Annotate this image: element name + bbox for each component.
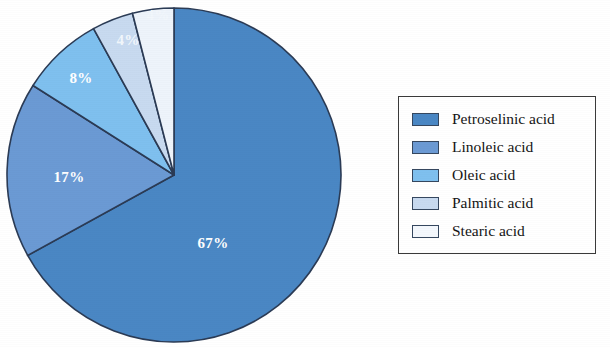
pie-slice-value-label: 17% bbox=[54, 169, 85, 185]
pie-chart-svg: 67%17%8%4%4% bbox=[0, 0, 360, 347]
legend-item[interactable]: Oleic acid bbox=[399, 161, 595, 189]
legend-item[interactable]: Stearic acid bbox=[399, 217, 595, 245]
legend-item-label: Oleic acid bbox=[452, 167, 515, 183]
pie-slice-value-label: 4% bbox=[146, 7, 169, 23]
legend-item-label: Linoleic acid bbox=[452, 139, 533, 155]
pie-slice-value-label: 8% bbox=[69, 70, 92, 86]
pie-slice-value-label: 4% bbox=[116, 32, 139, 48]
legend-color-swatch bbox=[412, 169, 439, 182]
legend-item-label: Stearic acid bbox=[452, 223, 525, 239]
legend-item-list: Petroselinic acidLinoleic acidOleic acid… bbox=[399, 105, 595, 245]
legend-color-swatch bbox=[412, 113, 439, 126]
legend-color-swatch bbox=[412, 141, 439, 154]
legend-color-swatch bbox=[412, 225, 439, 238]
legend-item[interactable]: Palmitic acid bbox=[399, 189, 595, 217]
pie-slice-value-label: 67% bbox=[198, 235, 229, 251]
legend-item[interactable]: Petroselinic acid bbox=[399, 105, 595, 133]
chart-legend: Petroselinic acidLinoleic acidOleic acid… bbox=[398, 96, 596, 254]
legend-item[interactable]: Linoleic acid bbox=[399, 133, 595, 161]
legend-item-label: Palmitic acid bbox=[452, 195, 533, 211]
legend-item-label: Petroselinic acid bbox=[452, 111, 555, 127]
pie-chart-figure: 67%17%8%4%4% Petroselinic acidLinoleic a… bbox=[0, 0, 610, 347]
pie-chart-plot-area: 67%17%8%4%4% bbox=[0, 0, 360, 347]
legend-color-swatch bbox=[412, 197, 439, 210]
